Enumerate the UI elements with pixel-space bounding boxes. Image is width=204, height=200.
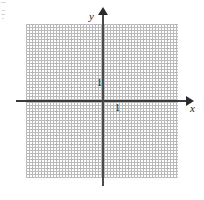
y-axis-label: y: [89, 11, 94, 22]
x-axis-unit-tick-label: 1: [115, 103, 120, 113]
scan-artifact-mark: [1, 2, 6, 3]
y-axis-unit-tick-label: 1: [97, 78, 102, 88]
scan-artifact-mark: [2, 10, 5, 11]
y-axis: [102, 14, 104, 186]
y-axis-arrow-icon: [98, 7, 108, 15]
scan-artifact-mark: [1, 14, 5, 15]
coordinate-plane-figure: x y 1 1: [0, 0, 204, 200]
x-axis-label: x: [190, 103, 195, 114]
scan-artifact-marks: [1, 2, 10, 22]
scan-artifact-mark: [2, 18, 4, 19]
